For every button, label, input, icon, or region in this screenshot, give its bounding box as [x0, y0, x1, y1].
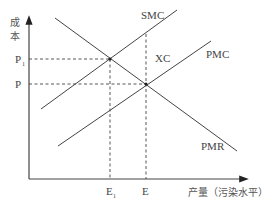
y-axis-label-2: 本 — [10, 30, 20, 42]
p-tick-label: P — [15, 78, 21, 90]
intersection-p1 — [108, 57, 111, 60]
p1-tick-label: P — [15, 53, 21, 65]
p1-tick-subscript: 1 — [22, 61, 25, 67]
pmc-curve — [58, 41, 211, 146]
e1-tick-label: E — [106, 185, 113, 197]
e1-tick-subscript: 1 — [113, 193, 116, 199]
xc-label: XC — [155, 52, 170, 64]
intersection-p — [144, 82, 147, 85]
pmc-label: PMC — [206, 48, 229, 60]
x-axis-label: 产量（污染水平） — [188, 186, 268, 198]
y-axis-label-1: 成 — [10, 17, 20, 28]
e-tick-label: E — [142, 185, 149, 197]
smc-label: SMC — [141, 9, 164, 21]
pmr-label: PMR — [201, 140, 225, 152]
externality-diagram: 成 本 SMC XC PMC PMR P 1 P E 1 E 产量（污染水平） — [0, 0, 276, 208]
